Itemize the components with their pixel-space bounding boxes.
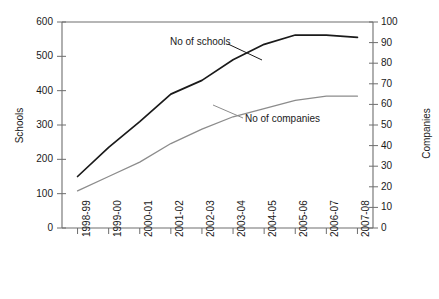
y-axis-left-tick-600: 600 [23, 17, 53, 27]
x-axis-tick-2000-01: 2000-01 [144, 200, 154, 237]
leader-line-companies [213, 105, 243, 118]
series-line-no-of-companies [78, 96, 358, 191]
x-axis-tick-2006-07: 2006-07 [330, 200, 340, 237]
x-axis-tick-2004-05: 2004-05 [268, 200, 278, 237]
y-axis-right-tick-80: 80 [381, 58, 407, 68]
x-axis-tick-1999-00: 1999-00 [113, 200, 123, 237]
y-axis-right-tick-40: 40 [381, 141, 407, 151]
axis-lines [62, 22, 373, 228]
y-axis-right-tick-100: 100 [381, 17, 407, 27]
y-axis-right-tick-50: 50 [381, 120, 407, 130]
y-axis-left-tick-400: 400 [23, 86, 53, 96]
x-axis-tick-2007-08: 2007-08 [361, 200, 371, 237]
y-axis-left-tick-200: 200 [23, 154, 53, 164]
series-line-no-of-schools [78, 35, 358, 176]
leader-line-schools [228, 44, 262, 60]
y-axis-right-tick-90: 90 [381, 38, 407, 48]
series-label-companies: No of companies [245, 113, 320, 124]
y-axis-right-tick-20: 20 [381, 182, 407, 192]
y-axis-right-tick-0: 0 [381, 223, 407, 233]
x-axis-tick-2001-02: 2001-02 [175, 200, 185, 237]
y-axis-right-tick-70: 70 [381, 79, 407, 89]
x-axis-tick-2002-03: 2002-03 [206, 200, 216, 237]
line-chart: Schools Companies 0100200300400500600 01… [0, 0, 439, 299]
x-axis-tick-2003-04: 2003-04 [237, 200, 247, 237]
y-axis-right-tick-30: 30 [381, 161, 407, 171]
y-axis-right-tick-10: 10 [381, 202, 407, 212]
y-axis-left-tick-500: 500 [23, 51, 53, 61]
x-axis-tick-1998-99: 1998-99 [82, 200, 92, 237]
x-axis-tick-2005-06: 2005-06 [299, 200, 309, 237]
y-axis-left-tick-100: 100 [23, 189, 53, 199]
y-axis-left-tick-0: 0 [23, 223, 53, 233]
series-label-schools: No of schools [170, 36, 231, 47]
y-axis-right-tick-60: 60 [381, 99, 407, 109]
y-axis-left-tick-300: 300 [23, 120, 53, 130]
y-axis-right-title: Companies [421, 94, 432, 174]
